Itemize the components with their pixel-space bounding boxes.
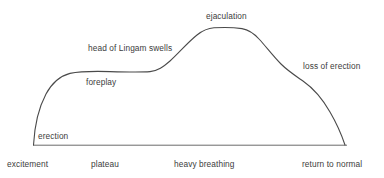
annotation-ejaculation: ejaculation — [206, 11, 247, 21]
response-cycle-diagram: erection foreplay head of Lingam swells … — [0, 0, 384, 178]
axis-label-return-to-normal: return to normal — [302, 159, 362, 169]
axis-label-plateau: plateau — [91, 159, 119, 169]
arousal-curve — [34, 27, 346, 145]
axis-label-excitement: excitement — [7, 159, 48, 169]
axis-label-heavy-breathing: heavy breathing — [174, 159, 235, 169]
annotation-erection: erection — [38, 131, 68, 141]
curve-graphic — [0, 0, 384, 178]
annotation-head-of-lingam-swells: head of Lingam swells — [88, 43, 172, 53]
annotation-foreplay: foreplay — [86, 77, 116, 87]
annotation-loss-of-erection: loss of erection — [303, 61, 360, 71]
